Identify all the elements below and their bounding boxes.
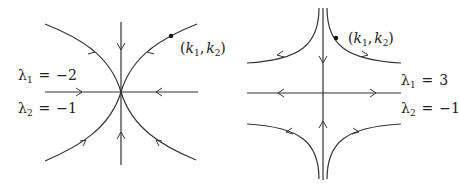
- right-arrow-top-right: [361, 51, 368, 57]
- right-trajectory-bottom-right: [327, 124, 401, 179]
- left-point-label: (k1,k2): [180, 40, 226, 58]
- left-trajectory-bottom-right: [121, 92, 196, 160]
- right-trajectory-bottom-left: [247, 124, 319, 179]
- left-initial-point: [169, 34, 173, 38]
- right-trajectory-top-left: [247, 8, 319, 63]
- phase-portraits: (k1,k2) λ1=−2 λ2=−1 (k1,k2) λ1=3 λ2=−1: [0, 0, 459, 191]
- right-lambda1-label: λ1=3: [401, 72, 448, 90]
- left-arrow-top-left: [88, 47, 95, 54]
- left-lambda2-label: λ2=−1: [18, 100, 77, 118]
- right-arrow-top-left: [277, 51, 284, 57]
- right-lambda2-label: λ2=−1: [401, 100, 459, 118]
- left-trajectory-top-right: [121, 24, 197, 92]
- left-lambda1-label: λ1=−2: [18, 67, 77, 85]
- right-point-label: (k1,k2): [348, 30, 394, 48]
- right-portrait: (k1,k2) λ1=3 λ2=−1: [247, 8, 459, 180]
- left-portrait: (k1,k2) λ1=−2 λ2=−1: [18, 22, 226, 165]
- left-arrow-top-right: [147, 47, 154, 54]
- right-initial-point: [334, 36, 338, 40]
